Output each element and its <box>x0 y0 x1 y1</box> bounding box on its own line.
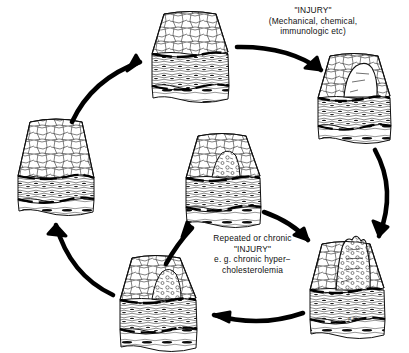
arrow-left-to-top <box>72 55 140 122</box>
arrows-layer <box>0 0 409 353</box>
atherosclerosis-injury-cycle-figure: "INJURY" (Mechanical, chemical, immunolo… <box>0 0 409 353</box>
caption-repeated-injury: Repeated or chronic "INJURY" e. g. chron… <box>190 233 315 275</box>
arrow-bottomcenter-to-center <box>166 222 192 264</box>
artist-signature: R.Ross <box>348 316 362 322</box>
arrow-bottomcenter-to-left <box>48 225 113 295</box>
caption-injury: "INJURY" (Mechanical, chemical, immunolo… <box>243 5 383 37</box>
arrow-bottomright-to-bottomcenter <box>214 312 303 322</box>
arrow-topright-to-bottomright <box>373 150 388 236</box>
arrow-top-to-topright <box>237 47 321 70</box>
